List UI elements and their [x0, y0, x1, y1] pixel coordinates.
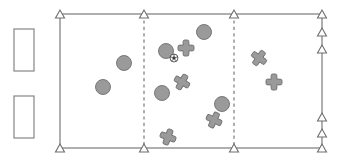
- circle-player-5: [155, 86, 170, 101]
- field-diagram-svg: [0, 0, 344, 162]
- bench-box-bottom: [14, 96, 34, 138]
- cross-player-1: [178, 40, 194, 56]
- cross-player-5: [248, 47, 270, 69]
- circle-player-4: [197, 25, 212, 40]
- triangle-marker-right-2: [318, 45, 327, 53]
- bench-box-top: [14, 29, 34, 71]
- circle-player-2: [117, 56, 132, 71]
- triangle-marker-right-3: [318, 113, 327, 121]
- circle-player-1: [96, 80, 111, 95]
- triangle-marker-right-4: [318, 129, 327, 137]
- cross-player-6: [266, 74, 282, 90]
- diagram-canvas: [0, 0, 344, 162]
- cross-player-3: [203, 109, 224, 130]
- circle-player-6: [215, 97, 230, 112]
- ball: [170, 54, 178, 62]
- cross-player-4: [158, 127, 179, 148]
- cross-player-2: [171, 71, 193, 93]
- triangle-marker-right-1: [318, 28, 327, 36]
